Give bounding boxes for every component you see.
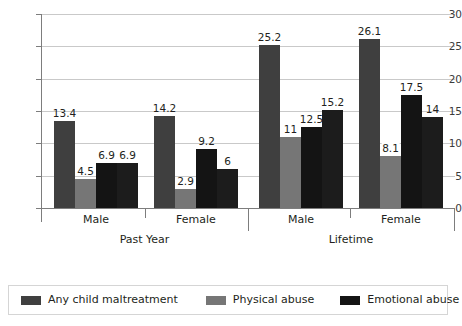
legend-item-any-child-maltreatment: Any child maltreatment	[21, 294, 178, 306]
y-tick-mark-5	[36, 176, 41, 177]
bar-group-lifetime-male: 25.21112.515.2	[256, 14, 346, 208]
bar-value-label: 6.9	[98, 150, 115, 161]
bar-value-label: 6.9	[119, 150, 136, 161]
bar-lifetime-female-neglect: 14	[422, 117, 443, 208]
bar-lifetime-male-any-child-maltreatment: 25.2	[259, 45, 280, 208]
bar-past-year-male-neglect: 6.9	[117, 163, 138, 208]
category-label-lifetime-male: Male	[256, 213, 346, 226]
bar-value-label: 15.2	[321, 97, 344, 108]
bar-value-label: 2.9	[177, 176, 194, 187]
y-tick-label-5: 5	[436, 171, 462, 181]
group-label-past-year: Past Year	[41, 233, 248, 246]
legend-swatch-emotional-abuse	[340, 296, 360, 305]
category-axis: Male Female Male Female	[41, 209, 455, 231]
bar-value-label: 26.1	[358, 26, 381, 37]
bar-value-label: 25.2	[258, 32, 281, 43]
bar-group-lifetime-female: 26.18.117.514	[356, 14, 446, 208]
legend-swatch-any-child-maltreatment	[21, 296, 41, 305]
bar-value-label: 11	[284, 124, 297, 135]
bar-value-label: 17.5	[400, 82, 423, 93]
category-label-past-year-female: Female	[151, 213, 241, 226]
category-label-lifetime-female: Female	[356, 213, 446, 226]
category-separator-end	[454, 209, 455, 231]
group-axis: Past Year Lifetime	[41, 231, 455, 251]
bar-past-year-male-emotional-abuse: 6.9	[96, 163, 117, 208]
category-separator-mid	[248, 209, 249, 231]
bar-lifetime-male-emotional-abuse: 12.5	[301, 127, 322, 208]
y-tick-mark-30	[36, 14, 41, 15]
bar-lifetime-male-physical-abuse: 11	[280, 137, 301, 208]
category-label-past-year-male: Male	[51, 213, 141, 226]
bar-past-year-female-physical-abuse: 2.9	[175, 189, 196, 208]
bar-value-label: 12.5	[300, 114, 323, 125]
bar-lifetime-male-neglect: 15.2	[322, 110, 343, 208]
legend-label-emotional-abuse: Emotional abuse	[367, 294, 459, 306]
legend-item-emotional-abuse: Emotional abuse	[340, 294, 459, 306]
bar-group-past-year-female: 14.22.99.26	[151, 14, 241, 208]
bar-past-year-female-neglect: 6	[217, 169, 238, 208]
y-tick-mark-20	[36, 79, 41, 80]
legend-item-physical-abuse: Physical abuse	[206, 294, 314, 306]
legend-swatch-physical-abuse	[206, 296, 226, 305]
bar-lifetime-female-emotional-abuse: 17.5	[401, 95, 422, 208]
bar-value-label: 6	[224, 156, 231, 167]
y-axis-line	[41, 14, 42, 222]
plot-area: 13.44.56.96.9 14.22.99.26 25.21112.515.2…	[41, 14, 455, 208]
bar-past-year-male-physical-abuse: 4.5	[75, 179, 96, 208]
y-tick-label-30: 30	[436, 9, 462, 19]
bar-group-past-year-male: 13.44.56.96.9	[51, 14, 141, 208]
bar-value-label: 14.2	[153, 103, 176, 114]
bar-chart: 13.44.56.96.9 14.22.99.26 25.21112.515.2…	[0, 0, 462, 326]
y-tick-label-20: 20	[436, 74, 462, 84]
bar-value-label: 9.2	[198, 136, 215, 147]
bar-value-label: 4.5	[77, 166, 94, 177]
group-label-lifetime: Lifetime	[248, 233, 454, 246]
category-separator-2	[350, 209, 351, 218]
bar-lifetime-female-physical-abuse: 8.1	[380, 156, 401, 208]
y-tick-label-15: 15	[436, 106, 462, 116]
bar-value-label: 8.1	[381, 143, 400, 154]
bar-past-year-female-emotional-abuse: 9.2	[196, 149, 217, 208]
y-tick-label-25: 25	[436, 41, 462, 51]
y-tick-label-10: 10	[436, 138, 462, 148]
y-tick-mark-25	[36, 46, 41, 47]
legend-label-physical-abuse: Physical abuse	[233, 294, 314, 306]
legend-label-any-child-maltreatment: Any child maltreatment	[48, 294, 178, 306]
bar-past-year-female-any-child-maltreatment: 14.2	[154, 116, 175, 208]
bar-value-label: 13.4	[53, 108, 76, 119]
y-tick-mark-10	[36, 143, 41, 144]
chart-legend: Any child maltreatment Physical abuse Em…	[8, 285, 448, 315]
category-separator-1	[145, 209, 146, 218]
y-tick-mark-15	[36, 111, 41, 112]
bar-lifetime-female-any-child-maltreatment: 26.1	[359, 39, 380, 208]
bar-past-year-male-any-child-maltreatment: 13.4	[54, 121, 75, 208]
